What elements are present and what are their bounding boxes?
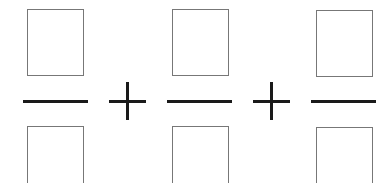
denominator-box-2[interactable] [172,126,229,183]
fraction-bar-2 [167,100,232,103]
denominator-box-1[interactable] [27,126,84,183]
plus-icon-2-vertical [270,82,273,120]
numerator-box-2[interactable] [172,9,229,76]
denominator-box-3[interactable] [316,127,373,183]
numerator-box-3[interactable] [316,10,373,77]
numerator-box-1[interactable] [27,9,84,76]
plus-icon-1-vertical [126,82,129,120]
fraction-bar-3 [311,100,376,103]
fraction-bar-1 [23,100,88,103]
